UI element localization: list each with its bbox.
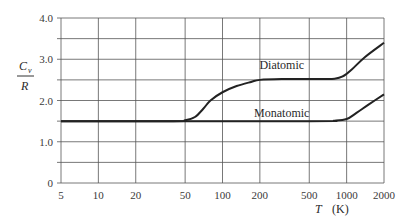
y-tick-label: 4.0 <box>39 12 53 24</box>
x-tick-label: 1000 <box>336 189 359 201</box>
x-tick-label: 500 <box>301 189 318 201</box>
grid <box>57 18 384 183</box>
x-tick-label: 100 <box>214 189 231 201</box>
x-tick-label: 2000 <box>373 189 396 201</box>
y-axis-label: C v R <box>17 59 34 93</box>
y-label-numerator: C <box>19 59 28 73</box>
monatomic-label: Monatomic <box>254 106 309 120</box>
y-tick-label: 3.0 <box>39 53 53 65</box>
y-tick-label: 2.0 <box>39 95 53 107</box>
x-label-variable: T <box>315 202 323 216</box>
y-tick-label: 0 <box>48 177 54 189</box>
heat-capacity-chart: 01.02.03.04.0 510205010020050010002000 D… <box>0 0 407 224</box>
x-tick-label: 10 <box>93 189 105 201</box>
x-tick-label: 20 <box>130 189 142 201</box>
x-label-unit: (K) <box>332 202 349 216</box>
diatomic-label: Diatomic <box>259 58 304 72</box>
x-tick-label: 5 <box>58 189 64 201</box>
x-tick-label: 200 <box>252 189 269 201</box>
y-tick-label: 1.0 <box>39 136 53 148</box>
x-axis-label: T (K) <box>315 202 349 216</box>
y-label-subscript: v <box>28 66 32 75</box>
y-label-denominator: R <box>20 79 29 93</box>
series-labels: DiatomicMonatomic <box>254 58 309 119</box>
x-tick-label: 50 <box>180 189 192 201</box>
x-axis-ticks: 510205010020050010002000 <box>58 189 395 201</box>
y-axis-ticks: 01.02.03.04.0 <box>39 12 53 189</box>
